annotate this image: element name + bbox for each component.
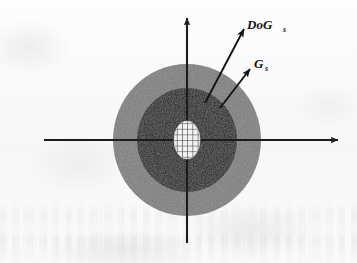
diagram-svg: DoG s G s xyxy=(0,0,357,263)
grid-hatched-core xyxy=(174,121,200,159)
dog-vector-label-subscript: s xyxy=(282,25,286,34)
gaussian-vector-label-subscript: s xyxy=(264,64,268,73)
figure-canvas: DoG s G s xyxy=(0,0,357,263)
dog-vector-label: DoG xyxy=(246,17,273,32)
gaussian-vector-label: G xyxy=(254,56,264,71)
